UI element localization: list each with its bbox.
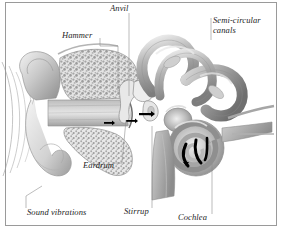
label-stirrup: Stirrup [124, 207, 149, 217]
semicircular-canals [142, 40, 242, 116]
label-hammer: Hammer [62, 31, 92, 41]
ear-canal [48, 100, 128, 126]
leader-sound [26, 186, 42, 208]
label-semicircular-line1: Semi-circular [213, 15, 261, 25]
label-sound-vibrations: Sound vibrations [27, 208, 86, 218]
label-semicircular-canals: Semi-circularcanals [213, 16, 261, 35]
label-eardrum: Eardrum [83, 161, 114, 171]
label-anvil: Anvil [110, 4, 128, 14]
label-cochlea: Cochlea [178, 213, 207, 223]
ear-anatomy-figure: Anvil Hammer Semi-circularcanals Eardrum… [0, 0, 283, 230]
label-semicircular-line2: canals [213, 25, 236, 35]
